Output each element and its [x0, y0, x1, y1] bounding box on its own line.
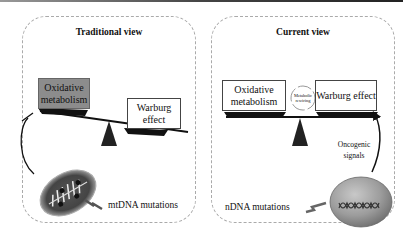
mitochondrion-icon — [32, 161, 104, 226]
oxidative-metabolism-box-heavy: Oxidative metabolism — [38, 78, 90, 109]
ndna-mutations-label: nDNA mutations — [225, 202, 290, 212]
mtdna-mutations-label: mtDNA mutations — [108, 200, 178, 210]
warburg-effect-box-light: Warburg effect — [127, 98, 181, 129]
oxidative-metabolism-box: Oxidative metabolism — [222, 80, 286, 111]
lightning-icon — [85, 200, 102, 209]
diagram-graphics — [0, 0, 403, 242]
oncogenic-signals-label: Oncogenic signals — [334, 139, 374, 161]
feedback-arrow-left — [21, 118, 34, 174]
nucleus-icon — [330, 177, 392, 227]
metabolic-rewiring-label: Metabolic rewiring — [292, 91, 314, 105]
lightning-icon — [306, 203, 326, 212]
warburg-effect-box: Warburg effect — [315, 80, 377, 111]
